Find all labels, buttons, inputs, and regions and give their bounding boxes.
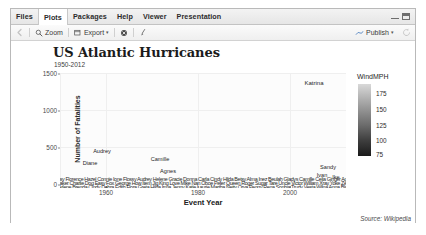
legend-windmph: WindMPH 175 150 125 100 75 <box>357 73 415 157</box>
back-arrow-icon[interactable] <box>11 26 28 39</box>
y-tick-1000: 1000 <box>43 107 57 114</box>
dense-label-row: Easy Florence Hazel Connie Ione Flossy A… <box>60 176 346 182</box>
legend-tick-125: 125 <box>376 122 387 129</box>
toolbar-separator <box>29 28 30 37</box>
chevron-down-icon[interactable]: ▾ <box>391 30 394 35</box>
point-label-katrina: Katrina <box>304 80 323 86</box>
chart-subtitle: 1950-2012 <box>54 61 85 68</box>
legend-gradient-colorbar <box>357 83 372 157</box>
dense-label-row: Able Baker Charlie Dog Easy Fox George H… <box>60 180 346 186</box>
x-tick-1980: 1980 <box>191 189 205 196</box>
y-tick-500: 500 <box>46 144 57 151</box>
point-label-ike: Ike <box>332 174 339 180</box>
zoom-button[interactable]: Zoom <box>31 26 67 39</box>
toolbar-separator <box>133 28 134 37</box>
gridline-y-0 <box>60 184 346 185</box>
legend-title: WindMPH <box>357 73 415 80</box>
chart-caption: Source: Wikipedia <box>360 215 411 222</box>
tab-bar-spacer <box>226 9 391 24</box>
export-icon <box>74 29 82 37</box>
point-label-diane: Diane <box>83 160 98 166</box>
legend-tick-labels: 175 150 125 100 75 <box>372 83 412 157</box>
x-axis-label: Event Year <box>60 198 346 207</box>
legend-tick-175: 175 <box>376 90 387 97</box>
pane-tab-bar: Files Plots Packages Help Viewer Present… <box>11 9 415 25</box>
gridline-y-1500 <box>60 73 346 74</box>
publish-label: Publish <box>366 29 389 36</box>
point-label-agnes: Agnes <box>160 168 176 174</box>
clear-all-plots-icon[interactable] <box>135 26 151 39</box>
gridline-x-spacer <box>60 73 61 185</box>
x-tick-2000: 2000 <box>283 189 297 196</box>
gridline-x-1980 <box>198 73 199 185</box>
toolbar-separator <box>68 28 69 37</box>
tab-files[interactable]: Files <box>11 9 38 24</box>
legend-tick-150: 150 <box>376 106 387 113</box>
gridline-x-1960 <box>106 73 107 185</box>
publish-button[interactable]: Publish ▾ <box>351 26 398 39</box>
tab-packages[interactable]: Packages <box>68 9 112 24</box>
zoom-label: Zoom <box>45 29 63 36</box>
publish-icon <box>355 29 364 37</box>
chevron-down-icon[interactable]: ▾ <box>106 30 109 35</box>
y-tick-1500: 1500 <box>43 70 57 77</box>
tab-plots[interactable]: Plots <box>38 9 68 25</box>
x-tick-1960: 1960 <box>99 189 113 196</box>
toolbar-separator <box>114 28 115 37</box>
point-label-ivan: Ivan <box>317 172 328 178</box>
legend-tick-75: 75 <box>376 151 383 158</box>
tab-help[interactable]: Help <box>112 9 138 24</box>
dense-label-band: Easy Florence Hazel Connie Ione Flossy A… <box>60 176 346 188</box>
tab-viewer[interactable]: Viewer <box>138 9 172 24</box>
gridline-x-2000 <box>290 73 291 185</box>
plots-pane-window: Files Plots Packages Help Viewer Present… <box>10 8 416 223</box>
gridline-y-1000 <box>60 110 346 111</box>
export-label: Export <box>84 29 104 36</box>
legend-body: 175 150 125 100 75 <box>357 83 415 157</box>
chart-plot-panel: Number of Fatalities 1500 1000 500 0 196… <box>60 73 346 185</box>
minimize-icon[interactable] <box>391 13 399 20</box>
chart-title: US Atlantic Hurricanes <box>53 45 220 60</box>
y-axis-label: Number of Fatalities <box>74 73 86 185</box>
tab-presentation[interactable]: Presentation <box>172 9 227 24</box>
plots-toolbar: Zoom Export ▾ <box>11 25 415 41</box>
magnifier-icon <box>35 29 43 37</box>
point-label-audrey: Audrey <box>93 148 111 154</box>
window-controls <box>391 9 415 24</box>
remove-plot-icon[interactable] <box>116 26 132 39</box>
point-label-sandy: Sandy <box>320 164 336 170</box>
plot-canvas: US Atlantic Hurricanes 1950-2012 Number … <box>11 41 415 224</box>
legend-tick-100: 100 <box>376 137 387 144</box>
y-tick-0: 0 <box>53 181 57 188</box>
refresh-icon[interactable] <box>398 26 415 39</box>
export-button[interactable]: Export ▾ <box>70 26 113 39</box>
point-label-camille: Camille <box>151 156 170 162</box>
maximize-icon[interactable] <box>402 13 410 20</box>
